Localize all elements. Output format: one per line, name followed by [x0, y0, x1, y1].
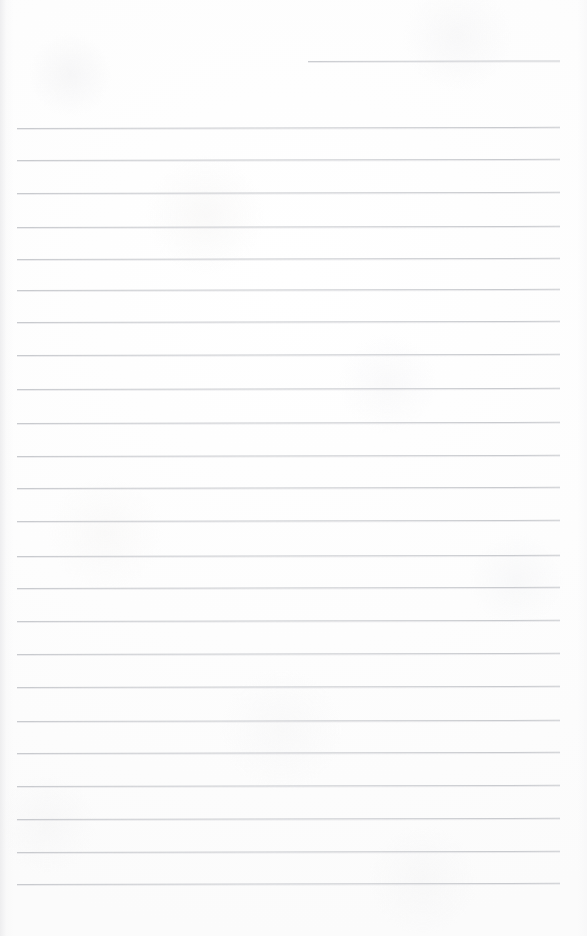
header-rule — [308, 60, 560, 62]
writing-area[interactable] — [17, 75, 560, 895]
scanned-page — [0, 0, 587, 936]
